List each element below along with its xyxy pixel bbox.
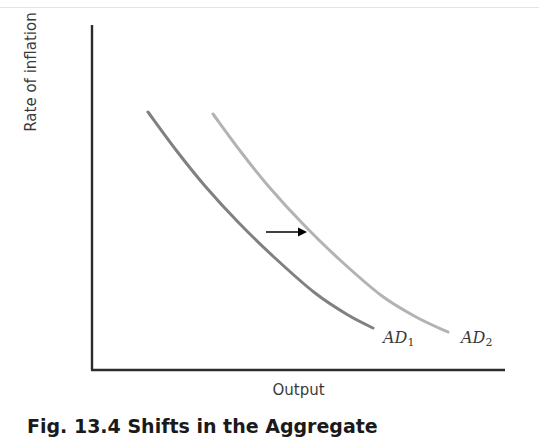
aggregate-demand-plot bbox=[0, 0, 539, 410]
shift-arrow-group bbox=[266, 227, 307, 236]
curve-ad1 bbox=[148, 112, 373, 328]
figure-container: Rate of inflation Output AD1 AD2 Fig. 13… bbox=[0, 0, 539, 438]
x-axis-label: Output bbox=[92, 381, 505, 399]
curve-label-ad2-subscript: 2 bbox=[485, 336, 492, 349]
axes-group bbox=[91, 25, 505, 370]
curve-label-ad2-text: AD bbox=[461, 328, 485, 347]
y-axis-label: Rate of inflation bbox=[22, 0, 40, 162]
figure-caption: Fig. 13.4 Shifts in the Aggregate bbox=[27, 414, 527, 438]
curve-label-ad1: AD1 bbox=[383, 328, 414, 347]
curve-label-ad1-subscript: 1 bbox=[407, 336, 414, 349]
curve-label-ad1-text: AD bbox=[383, 328, 407, 347]
curve-ad1-group bbox=[148, 112, 373, 328]
curve-ad2-group bbox=[213, 114, 448, 332]
curve-ad2 bbox=[213, 114, 448, 332]
curve-label-ad2: AD2 bbox=[461, 328, 492, 347]
